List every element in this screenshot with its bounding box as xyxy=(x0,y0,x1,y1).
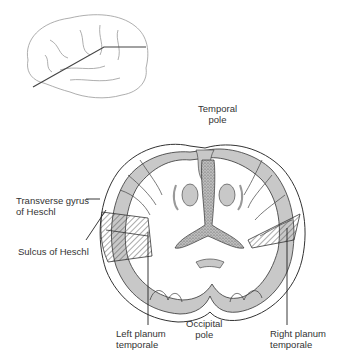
horizontal-section xyxy=(100,144,305,322)
label-line: Left planum xyxy=(116,328,166,339)
label-line: temporale xyxy=(270,339,326,350)
label-occipital-pole: Occipital pole xyxy=(186,318,222,340)
brain-diagram xyxy=(0,0,341,357)
label-line: Temporal xyxy=(198,103,237,114)
section-plane-line xyxy=(33,47,146,87)
label-right-planum: Right planum temporale xyxy=(270,328,326,350)
label-transverse-gyrus: Transverse gyrus of Heschl xyxy=(16,195,89,217)
label-left-planum: Left planum temporale xyxy=(116,328,166,350)
label-line: Occipital xyxy=(186,318,222,329)
label-line: Transverse gyrus xyxy=(16,195,89,206)
label-line: Right planum xyxy=(270,328,326,339)
label-line: pole xyxy=(198,114,237,125)
label-sulcus-heschl: Sulcus of Heschl xyxy=(18,246,89,257)
label-line: pole xyxy=(186,329,222,340)
label-temporal-pole: Temporal pole xyxy=(198,103,237,125)
label-line: of Heschl xyxy=(16,206,89,217)
label-line: Sulcus of Heschl xyxy=(18,246,89,257)
label-line: temporale xyxy=(116,339,166,350)
